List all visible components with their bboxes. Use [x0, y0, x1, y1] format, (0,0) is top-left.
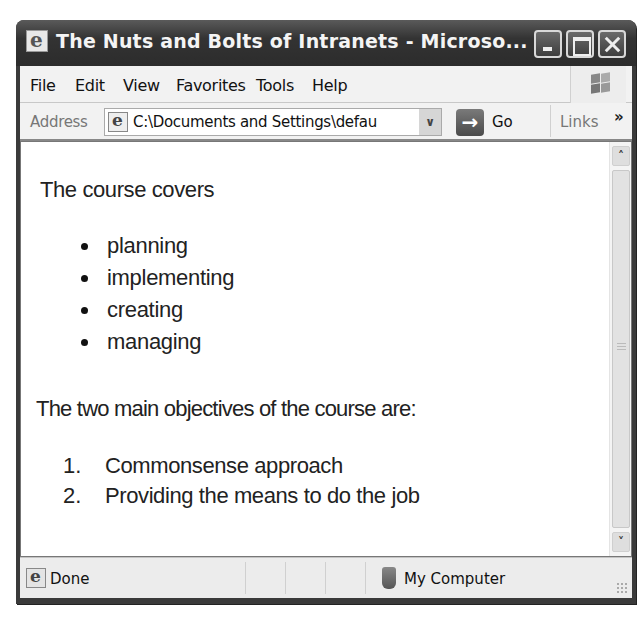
title-bar[interactable]: The Nuts and Bolts of Intranets - Micros… — [16, 20, 636, 66]
ie-page-icon — [26, 568, 46, 588]
status-divider — [285, 562, 286, 594]
menu-file[interactable]: File — [30, 76, 56, 95]
arrow-right-icon: → — [456, 109, 484, 136]
window-title: The Nuts and Bolts of Intranets - Micros… — [56, 30, 528, 52]
objectives-heading: The two main objectives of the course ar… — [36, 396, 416, 422]
page-content: The course covers planning implementing … — [20, 141, 632, 557]
status-bar: Done My Computer — [20, 557, 632, 598]
grip-icon — [617, 343, 626, 351]
menu-tools[interactable]: Tools — [256, 76, 294, 95]
go-label: Go — [492, 113, 513, 131]
resize-grip-icon[interactable] — [616, 582, 628, 594]
status-divider — [365, 562, 366, 594]
address-value[interactable]: C:\Documents and Settings\defau — [133, 113, 417, 131]
links-button[interactable]: Links — [560, 113, 599, 131]
chevron-more-icon[interactable]: » — [614, 108, 624, 126]
status-text: Done — [50, 570, 89, 588]
menu-help[interactable]: Help — [312, 76, 347, 95]
minimize-button[interactable] — [534, 30, 562, 58]
address-label: Address — [30, 113, 88, 131]
scroll-up-button[interactable]: ˄ — [612, 146, 630, 166]
document-body: The course covers planning implementing … — [21, 142, 595, 556]
security-zone: My Computer — [404, 570, 505, 588]
browser-window: The Nuts and Bolts of Intranets - Micros… — [16, 20, 636, 604]
menu-favorites[interactable]: Favorites — [176, 76, 246, 95]
bullet-icon — [81, 307, 88, 314]
close-button[interactable] — [598, 30, 626, 58]
address-input[interactable]: C:\Documents and Settings\defau ∨ — [104, 108, 442, 136]
go-button[interactable]: → Go — [456, 109, 526, 137]
scroll-thumb[interactable] — [612, 170, 630, 528]
address-bar: Address C:\Documents and Settings\defau … — [20, 103, 632, 141]
ie-page-icon — [26, 30, 48, 52]
maximize-button[interactable] — [566, 30, 594, 58]
windows-flag-icon — [570, 66, 626, 103]
status-divider — [245, 562, 246, 594]
toolbar-divider — [550, 105, 551, 137]
scroll-down-button[interactable]: ˅ — [612, 532, 630, 552]
bullet-icon — [81, 339, 88, 346]
bullet-icon — [81, 243, 88, 250]
vertical-scrollbar[interactable]: ˄ ˅ — [609, 142, 631, 556]
menu-bar: File Edit View Favorites Tools Help — [20, 66, 632, 103]
intro-paragraph: The course covers — [40, 177, 214, 203]
chevron-down-icon[interactable]: ∨ — [419, 109, 441, 135]
menu-edit[interactable]: Edit — [75, 76, 105, 95]
status-divider — [325, 562, 326, 594]
computer-zone-icon — [382, 567, 396, 589]
ie-page-icon — [108, 112, 128, 132]
menu-view[interactable]: View — [123, 76, 160, 95]
bullet-icon — [81, 275, 88, 282]
